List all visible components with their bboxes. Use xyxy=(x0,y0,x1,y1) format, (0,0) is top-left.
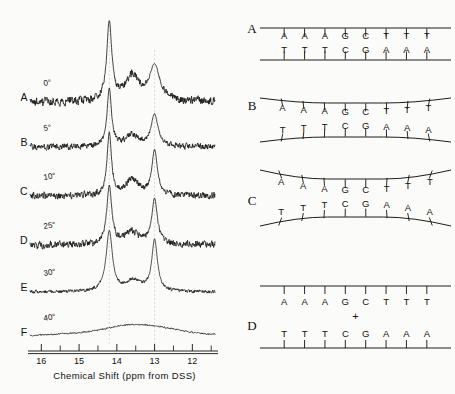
dna-base-bottom: G xyxy=(362,120,369,131)
nmr-spectra-plot: A0°B5°C10°D25°E30°F40°1615141312Chemical… xyxy=(0,0,232,394)
dna-base-top: A xyxy=(278,176,285,187)
nmr-trace-label-f: F xyxy=(21,326,28,338)
dna-base-bottom: T xyxy=(322,328,328,339)
dna-base-bottom: C xyxy=(342,198,349,209)
dna-base-bottom: A xyxy=(405,202,412,213)
dna-base-bottom: T xyxy=(278,206,284,217)
dna-base-tick-bottom xyxy=(387,210,388,218)
nmr-temperature-label-a: 0° xyxy=(43,78,52,88)
nmr-temperature-label-b: 5° xyxy=(43,123,52,133)
dna-base-top: G xyxy=(342,296,349,307)
dna-base-bottom: T xyxy=(302,44,308,55)
dna-backbone-bottom xyxy=(260,137,451,142)
dna-panel-c: CATATATGCCGTATATA xyxy=(248,170,451,226)
dna-base-top: A xyxy=(301,104,308,115)
dna-backbone-top xyxy=(260,170,451,179)
dna-base-tick-bottom xyxy=(302,213,304,221)
dna-panel-label-d: D xyxy=(247,318,256,333)
axis-tick-label-12: 12 xyxy=(187,356,197,366)
dna-base-bottom: T xyxy=(280,124,286,135)
dna-base-bottom: T xyxy=(281,44,287,55)
dna-base-bottom: A xyxy=(425,124,432,135)
dna-base-top: C xyxy=(362,296,369,307)
dna-duplex-diagram: AATATATGCCGTATATABATATATGCCGTATATACATATA… xyxy=(232,0,455,394)
dna-base-bottom: A xyxy=(383,328,390,339)
dna-base-top: A xyxy=(301,30,308,41)
dna-panel-a: AATATATGCCGTATATA xyxy=(247,21,451,60)
dna-base-top: T xyxy=(424,30,430,41)
dna-base-top: A xyxy=(281,30,288,41)
dna-base-bottom: A xyxy=(383,121,390,132)
dna-base-top: T xyxy=(404,30,410,41)
dna-base-top: T xyxy=(424,296,430,307)
dna-base-top: A xyxy=(300,180,307,191)
axis-tick-label-14: 14 xyxy=(112,356,122,366)
dna-base-top: C xyxy=(362,30,369,41)
dna-base-bottom: A xyxy=(427,206,434,217)
nmr-temperature-label-f: 40° xyxy=(43,312,56,323)
dna-panel-label-b: B xyxy=(248,98,257,113)
dna-base-bottom: A xyxy=(403,44,410,55)
dna-panel-label-c: C xyxy=(248,193,257,208)
nmr-temperature-label-e: 30° xyxy=(43,267,56,278)
dna-base-bottom: T xyxy=(322,121,328,132)
dna-base-bottom: A xyxy=(404,122,411,133)
dna-base-top: A xyxy=(279,102,286,113)
dna-panel-b: BATATATGCCGTATATA xyxy=(248,98,451,142)
nmr-spectra-panel: A0°B5°C10°D25°E30°F40°1615141312Chemical… xyxy=(0,0,232,394)
dna-plus-sign: + xyxy=(352,310,358,322)
dna-base-bottom: T xyxy=(300,202,306,213)
dna-base-top: A xyxy=(281,296,288,307)
dna-base-tick-bottom xyxy=(408,213,410,221)
dna-base-top: A xyxy=(301,296,308,307)
dna-base-bottom: C xyxy=(342,120,349,131)
dna-base-top: T xyxy=(426,102,432,113)
axis-tick-label-13: 13 xyxy=(150,356,160,366)
dna-schematic-panel: AATATATGCCGTATATABATATATGCCGTATATACATATA… xyxy=(232,0,455,394)
dna-base-bottom: A xyxy=(424,328,431,339)
figure-root: A0°B5°C10°D25°E30°F40°1615141312Chemical… xyxy=(0,0,455,394)
dna-base-top: T xyxy=(383,105,389,116)
dna-base-tick-bottom xyxy=(324,210,325,218)
dna-base-bottom: A xyxy=(403,328,410,339)
dna-panel-d: DATATATGCCGTATATA+ xyxy=(247,286,451,348)
dna-base-bottom: T xyxy=(301,122,307,133)
dna-base-top: A xyxy=(322,296,329,307)
dna-backbone-bottom xyxy=(260,217,451,226)
axis-tick-label-16: 16 xyxy=(36,356,46,366)
nmr-trace-label-a: A xyxy=(20,91,27,103)
dna-base-top: C xyxy=(362,106,369,117)
dna-base-bottom: T xyxy=(322,44,328,55)
dna-base-top: T xyxy=(404,104,410,115)
dna-base-bottom: C xyxy=(342,44,349,55)
dna-base-bottom: C xyxy=(342,328,349,339)
dna-base-bottom: G xyxy=(362,44,369,55)
dna-backbone-top xyxy=(260,98,451,103)
dna-base-top: T xyxy=(405,180,411,191)
dna-base-bottom: A xyxy=(383,44,390,55)
dna-base-bottom: G xyxy=(362,198,369,209)
nmr-trace-label-d: D xyxy=(20,234,28,246)
dna-base-top: A xyxy=(322,30,329,41)
dna-base-top: T xyxy=(427,176,433,187)
nmr-temperature-label-c: 10° xyxy=(43,171,56,182)
nmr-trace-label-e: E xyxy=(20,281,27,293)
nmr-trace-label-c: C xyxy=(20,185,28,197)
nmr-trace-label-b: B xyxy=(20,136,27,148)
x-axis-caption: Chemical Shift (ppm from DSS) xyxy=(53,370,196,381)
dna-base-bottom: G xyxy=(362,328,369,339)
dna-base-bottom: T xyxy=(302,328,308,339)
dna-base-top: G xyxy=(342,30,349,41)
dna-base-top: A xyxy=(321,105,328,116)
dna-base-top: C xyxy=(362,184,369,195)
dna-base-top: T xyxy=(384,183,390,194)
nmr-temperature-label-d: 25° xyxy=(43,220,56,231)
dna-base-top: T xyxy=(383,296,389,307)
dna-base-bottom: A xyxy=(383,199,390,210)
dna-base-top: G xyxy=(342,106,349,117)
dna-base-top: T xyxy=(404,296,410,307)
dna-base-top: G xyxy=(342,184,349,195)
axis-tick-label-15: 15 xyxy=(74,356,84,366)
dna-base-top: A xyxy=(321,183,328,194)
dna-base-bottom: T xyxy=(321,199,327,210)
